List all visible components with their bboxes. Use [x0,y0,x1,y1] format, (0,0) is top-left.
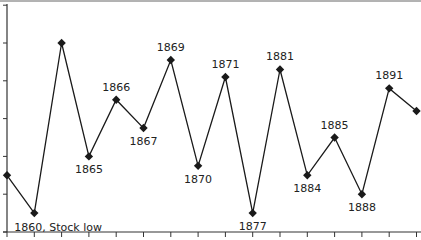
point-label: 1867 [130,135,158,148]
diamond-marker [330,133,338,141]
diamond-marker [276,65,284,73]
point-label: 1871 [211,58,239,71]
point-label: 1865 [75,163,103,176]
point-label: 1885 [321,119,349,132]
diamond-marker [194,162,202,170]
point-label: 1881 [266,50,294,63]
point-label: 1884 [293,182,321,195]
point-label: 1891 [375,69,403,82]
diamond-marker [85,152,93,160]
diamond-marker [3,171,11,179]
diamond-marker [358,190,366,198]
point-label: 1866 [102,81,130,94]
diamond-marker [30,209,38,217]
diamond-marker [303,171,311,179]
point-label: 1860, Stock low [14,221,102,234]
point-label: 1870 [184,173,212,186]
diamond-marker [221,73,229,81]
point-label: 1888 [348,201,376,214]
diamond-marker [249,209,257,217]
data-labels: 1860, Stock low1865186618671869187018711… [14,41,403,234]
point-label: 1877 [239,220,267,233]
line-chart: 1860, Stock low1865186618671869187018711… [0,0,421,240]
diamond-marker [57,39,65,47]
point-label: 1869 [157,41,185,54]
diamond-marker [167,56,175,64]
